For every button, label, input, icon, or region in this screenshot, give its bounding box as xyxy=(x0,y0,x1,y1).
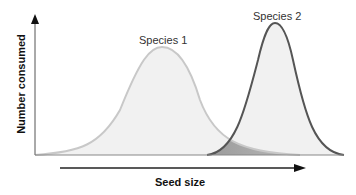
species1-label: Species 1 xyxy=(139,34,187,46)
y-axis-label: Number consumed xyxy=(15,29,27,139)
niche-overlap-diagram xyxy=(0,0,356,195)
x-axis-label: Seed size xyxy=(120,176,240,188)
y-axis-arrow-icon xyxy=(31,14,39,24)
species2-label: Species 2 xyxy=(253,10,301,22)
x-arrow-head-icon xyxy=(294,164,306,172)
